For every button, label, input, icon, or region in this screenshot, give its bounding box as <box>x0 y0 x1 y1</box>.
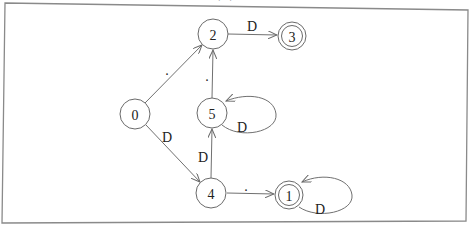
state-3[interactable]: 3 <box>278 22 306 50</box>
diagram-frame <box>2 3 468 223</box>
state-2[interactable]: 2 <box>198 19 228 49</box>
edge-label-0-to-4: D <box>162 130 172 145</box>
state-1[interactable]: 1 <box>275 181 303 209</box>
state-4[interactable]: 4 <box>196 178 226 208</box>
edge-label-5-self-loop: D <box>237 120 247 135</box>
edge-label-4-to-5: D <box>198 150 208 165</box>
state-1-label: 1 <box>286 189 293 204</box>
caption: (...) <box>216 0 234 1</box>
state-diagram: (...) . D D . D D . D 0 <box>0 0 470 233</box>
state-5[interactable]: 5 <box>197 98 227 128</box>
state-3-label: 3 <box>289 30 296 45</box>
edge-label-2-to-3: D <box>247 19 257 34</box>
state-4-label: 4 <box>208 187 215 202</box>
edge-label-4-to-1: . <box>244 179 248 194</box>
state-5-label: 5 <box>209 107 216 122</box>
edge-label-1-self-loop: D <box>315 202 325 217</box>
state-0-label: 0 <box>132 108 139 123</box>
edge-label-5-to-2: . <box>205 69 209 84</box>
state-0[interactable]: 0 <box>120 99 150 129</box>
edge-label-0-to-2: . <box>165 63 169 78</box>
state-2-label: 2 <box>210 28 217 43</box>
